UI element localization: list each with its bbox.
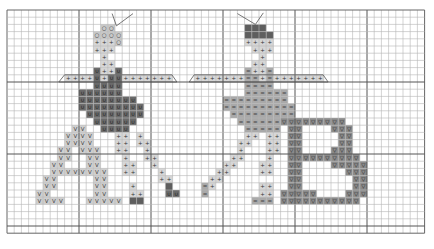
stitch-symbol: + bbox=[260, 162, 265, 168]
stitch-symbol: + bbox=[102, 61, 107, 67]
stitch-symbol: ∪ bbox=[88, 111, 92, 117]
stitch-symbol: + bbox=[131, 75, 136, 81]
stitch-symbol: = bbox=[260, 83, 265, 89]
stitch-dark-gray-solid bbox=[259, 24, 266, 31]
stitch-symbol: + bbox=[267, 47, 272, 53]
stitch-symbol: ∪ bbox=[109, 111, 113, 117]
stitch-symbol: V bbox=[66, 169, 70, 175]
stitch-symbol: + bbox=[224, 169, 229, 175]
ribbon-left bbox=[116, 14, 133, 26]
stitch-symbol: ∪ bbox=[95, 68, 99, 74]
stitch-symbol: ∪ bbox=[117, 97, 121, 103]
stitch-symbol: V bbox=[117, 198, 121, 204]
stitch-symbol: + bbox=[145, 147, 150, 153]
stitch-symbol: = bbox=[253, 90, 258, 96]
stitch-symbol: = bbox=[224, 104, 229, 110]
stitch-symbol: V bbox=[59, 162, 63, 168]
stitch-symbol: = bbox=[253, 119, 258, 125]
stitch-symbol: + bbox=[275, 75, 280, 81]
stitch-symbol: ∪ bbox=[117, 83, 121, 89]
stitch-symbol: + bbox=[253, 47, 258, 53]
stitch-symbol: V bbox=[81, 133, 85, 139]
stitch-symbol: ∪ bbox=[95, 104, 99, 110]
stitch-symbol: + bbox=[152, 75, 157, 81]
ribbon-right bbox=[237, 14, 255, 25]
stitch-symbol: = bbox=[275, 90, 280, 96]
stitch-symbol: ∪ bbox=[102, 90, 106, 96]
stitch-symbol: V bbox=[88, 162, 92, 168]
stitch-symbol: + bbox=[109, 47, 114, 53]
stitch-symbol: + bbox=[167, 176, 172, 182]
stitch-symbol: + bbox=[123, 147, 128, 153]
stitch-symbol: + bbox=[116, 147, 121, 153]
stitch-symbol: V bbox=[95, 169, 99, 175]
stitch-symbol: + bbox=[260, 68, 265, 74]
stitch-symbol: + bbox=[131, 162, 136, 168]
stitch-symbol: = bbox=[275, 119, 280, 125]
stitch-symbol: V bbox=[102, 198, 106, 204]
stitch-symbol: + bbox=[102, 54, 107, 60]
stitch-symbol: = bbox=[267, 126, 272, 132]
stitch-symbol: V bbox=[88, 140, 92, 146]
stitch-symbol: + bbox=[203, 75, 208, 81]
stitch-symbol: + bbox=[102, 68, 107, 74]
stitch-symbol: = bbox=[267, 90, 272, 96]
stitch-symbol: V bbox=[52, 162, 56, 168]
stitch-symbol: V bbox=[59, 147, 63, 153]
stitch-symbol: ∪ bbox=[117, 126, 121, 132]
stitch-symbol: + bbox=[195, 75, 200, 81]
stitch-symbol: ∪ bbox=[102, 83, 106, 89]
stitch-symbol: + bbox=[260, 39, 265, 45]
stitch-symbol: = bbox=[267, 75, 272, 81]
stitch-symbol: + bbox=[102, 39, 107, 45]
chart-grid bbox=[7, 10, 425, 233]
stitch-symbol: + bbox=[95, 39, 100, 45]
stitch-symbol: = bbox=[239, 97, 244, 103]
stitch-symbol: = bbox=[267, 198, 272, 204]
stitch-symbol: = bbox=[260, 90, 265, 96]
stitch-symbol: + bbox=[239, 155, 244, 161]
stitch-symbol: = bbox=[246, 90, 251, 96]
stitch-symbol: = bbox=[282, 111, 287, 117]
stitch-symbol: V bbox=[52, 176, 56, 182]
stitch-symbol: V bbox=[88, 155, 92, 161]
stitch-symbol: + bbox=[260, 75, 265, 81]
stitch-symbol: ∪ bbox=[102, 111, 106, 117]
stitch-symbol: + bbox=[109, 61, 114, 67]
stitch-symbol: = bbox=[267, 83, 272, 89]
stitch-symbol: V bbox=[88, 198, 92, 204]
stitch-symbol: = bbox=[253, 111, 258, 117]
stitch-symbol: ∪ bbox=[124, 126, 128, 132]
stitch-symbol: + bbox=[231, 155, 236, 161]
stitch-dark-gray-solid bbox=[129, 197, 136, 204]
stitch-symbol: = bbox=[224, 97, 229, 103]
stitch-symbol: + bbox=[145, 155, 150, 161]
stitch-symbol: ○ bbox=[116, 39, 121, 45]
stitch-symbol: + bbox=[239, 140, 244, 146]
stitch-symbol: + bbox=[267, 183, 272, 189]
stitch-symbol: V bbox=[38, 198, 42, 204]
stitch-symbol: = bbox=[246, 83, 251, 89]
stitch-symbol: ∪ bbox=[109, 97, 113, 103]
stitch-symbol: ∪ bbox=[88, 97, 92, 103]
stitch-symbol: = bbox=[253, 104, 258, 110]
stitch-symbol: = bbox=[289, 111, 294, 117]
stitch-symbol: ∪ bbox=[109, 75, 113, 81]
stitch-symbol: = bbox=[231, 111, 236, 117]
stitch-symbol: V bbox=[81, 147, 85, 153]
stitch-symbol: ∪ bbox=[81, 104, 85, 110]
stitch-symbol: + bbox=[253, 61, 258, 67]
stitch-symbol: = bbox=[267, 104, 272, 110]
stitch-symbol: = bbox=[246, 68, 251, 74]
stitch-symbol: V bbox=[110, 198, 114, 204]
stitch-symbol: ∪ bbox=[109, 126, 113, 132]
stitch-symbol: = bbox=[246, 126, 251, 132]
stitch-symbol: V bbox=[102, 191, 106, 197]
stitch-symbol: ∪ bbox=[88, 104, 92, 110]
stitch-symbol: V bbox=[38, 191, 42, 197]
stitch-dark-gray-solid bbox=[245, 32, 252, 39]
stitch-symbol: + bbox=[123, 140, 128, 146]
stitch-symbol: + bbox=[80, 75, 85, 81]
stitch-symbol: + bbox=[138, 133, 143, 139]
stitch-symbol: V bbox=[88, 169, 92, 175]
